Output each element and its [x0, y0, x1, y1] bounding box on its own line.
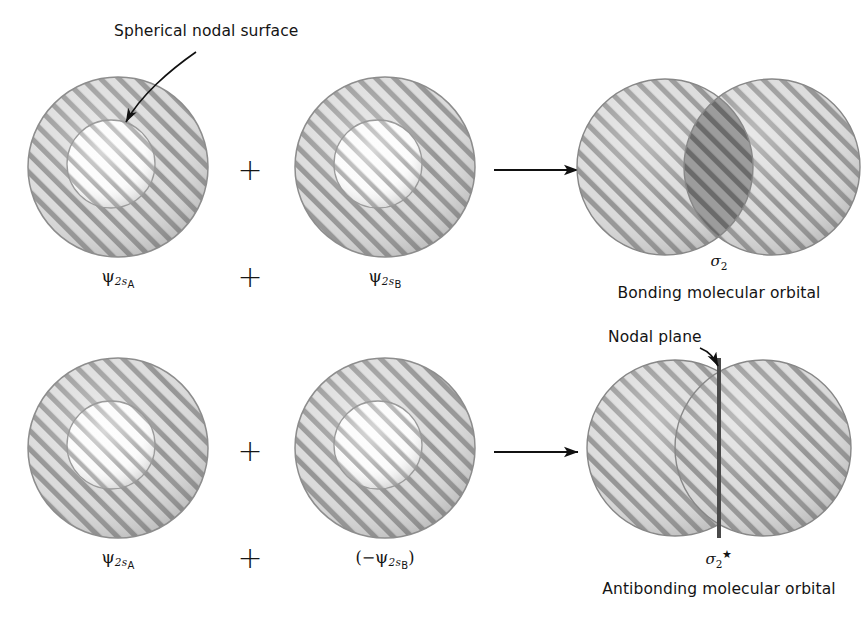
- psi-atom-subscript-top-left: A: [127, 279, 134, 290]
- spherical-nodal-surface-top-middle: [334, 120, 422, 208]
- sigma-subscript-antibonding: 2: [716, 558, 723, 570]
- molecular-orbital-diagram: [0, 0, 861, 630]
- nodal-plane-label: Nodal plane: [608, 328, 702, 346]
- spherical-nodal-surface-bottom-left: [67, 401, 155, 489]
- label-psi-2s-A-top: ψ2sA: [101, 266, 134, 290]
- psi-glyph-top-middle: ψ: [368, 266, 381, 286]
- sigma-glyph-antibonding: σ: [706, 550, 716, 568]
- label-negative-psi-2s-B-bottom: (−ψ2sB): [355, 547, 414, 571]
- psi-glyph-bottom-middle: ψ: [375, 547, 388, 567]
- psi-subscript-top-left: 2s: [115, 275, 128, 287]
- psi-glyph-bottom-left: ψ: [101, 547, 114, 567]
- atomic-orbital-negative-2sB-bottom: [295, 358, 475, 538]
- psi-subscript-top-middle: 2s: [382, 275, 395, 287]
- atomic-orbital-2sB-top: [295, 77, 475, 257]
- paren-open-bottom-middle: (−: [355, 548, 375, 567]
- psi-subscript-bottom-middle: 2s: [388, 556, 401, 568]
- psi-atom-subscript-bottom-left: A: [127, 560, 134, 571]
- plus-sign-bottom-orbitals: +: [237, 436, 262, 466]
- paren-close-bottom-middle: ): [408, 548, 414, 567]
- spherical-nodal-surface-label: Spherical nodal surface: [114, 22, 298, 40]
- label-sigma-2-star-antibonding: σ2★: [706, 548, 733, 570]
- sigma-star-superscript: ★: [722, 548, 732, 561]
- spherical-nodal-surface-bottom-middle: [334, 401, 422, 489]
- bonding-molecular-orbital-caption: Bonding molecular orbital: [618, 284, 821, 302]
- atomic-orbital-2sA-top: [28, 77, 208, 257]
- antibonding-molecular-orbital-caption: Antibonding molecular orbital: [602, 580, 835, 598]
- label-sigma-2-bonding: σ2: [711, 252, 728, 272]
- antibonding-molecular-orbital: [587, 358, 851, 538]
- plus-sign-bottom-labels: +: [237, 543, 262, 573]
- psi-subscript-bottom-left: 2s: [115, 556, 128, 568]
- plus-sign-top-orbitals: +: [237, 155, 262, 185]
- psi-glyph-top-left: ψ: [101, 266, 114, 286]
- psi-atom-subscript-bottom-middle: B: [401, 560, 408, 571]
- plus-sign-top-labels: +: [237, 262, 262, 292]
- label-psi-2s-A-bottom: ψ2sA: [101, 547, 134, 571]
- label-psi-2s-B-top: ψ2sB: [368, 266, 401, 290]
- sigma-subscript-bonding: 2: [721, 260, 728, 272]
- psi-atom-subscript-top-middle: B: [394, 279, 401, 290]
- bonding-molecular-orbital: [577, 79, 860, 255]
- sigma-glyph-bonding: σ: [711, 252, 721, 270]
- spherical-nodal-surface-top-left: [67, 120, 155, 208]
- atomic-orbital-2sA-bottom: [28, 358, 208, 538]
